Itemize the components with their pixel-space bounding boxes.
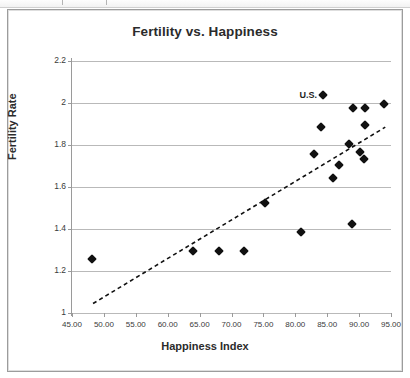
gridline — [72, 271, 391, 272]
gridline — [72, 229, 391, 230]
chart-title: Fertility vs. Happiness — [8, 24, 402, 39]
x-tick-label: 55.00 — [126, 320, 146, 329]
y-tick-mark — [68, 103, 72, 104]
data-point — [360, 103, 370, 113]
data-point — [348, 103, 358, 113]
y-tick-label: 1.4 — [20, 223, 66, 233]
x-tick-mark — [295, 313, 296, 317]
data-point — [379, 99, 389, 109]
y-tick-mark — [68, 187, 72, 188]
y-tick-mark — [68, 229, 72, 230]
x-tick-mark — [391, 313, 392, 317]
y-axis-title: Fertility Rate — [6, 93, 18, 160]
x-tick-label: 90.00 — [349, 320, 369, 329]
data-point — [188, 246, 198, 256]
x-tick-mark — [263, 313, 264, 317]
x-tick-label: 65.00 — [190, 320, 210, 329]
x-tick-mark — [359, 313, 360, 317]
plot-area: 11.21.41.61.822.2 45.0050.0055.0060.0065… — [72, 61, 391, 313]
scan-artifact-strip — [0, 0, 410, 8]
x-tick-mark — [327, 313, 328, 317]
x-tick-label: 95.00 — [381, 320, 401, 329]
x-tick-label: 85.00 — [317, 320, 337, 329]
x-tick-mark — [168, 313, 169, 317]
data-point — [214, 246, 224, 256]
x-tick-label: 45.00 — [62, 320, 82, 329]
annotation-label-us: U.S. — [299, 90, 317, 100]
y-tick-label: 1 — [20, 307, 66, 317]
x-tick-label: 75.00 — [253, 320, 273, 329]
data-point — [239, 246, 249, 256]
data-point — [347, 219, 357, 229]
y-tick-mark — [68, 271, 72, 272]
gridline — [72, 103, 391, 104]
y-tick-mark — [68, 145, 72, 146]
y-tick-label: 2 — [20, 97, 66, 107]
data-point — [334, 160, 344, 170]
data-point — [344, 139, 354, 149]
x-axis-title: Happiness Index — [8, 340, 402, 352]
x-tick-label: 50.00 — [94, 320, 114, 329]
x-tick-label: 60.00 — [158, 320, 178, 329]
y-tick-mark — [68, 61, 72, 62]
x-tick-mark — [104, 313, 105, 317]
data-point — [317, 122, 327, 132]
y-tick-label: 1.6 — [20, 181, 66, 191]
scan-artifact-tick — [106, 0, 107, 5]
x-tick-mark — [232, 313, 233, 317]
data-point — [360, 120, 370, 130]
data-point — [260, 198, 270, 208]
x-tick-label: 70.00 — [221, 320, 241, 329]
chart-figure-frame: Fertility vs. Happiness Fertility Rate H… — [7, 9, 403, 372]
data-point — [318, 90, 328, 100]
gridline — [72, 187, 391, 188]
y-tick-label: 1.2 — [20, 265, 66, 275]
x-tick-label: 80.00 — [285, 320, 305, 329]
x-tick-mark — [200, 313, 201, 317]
gridline — [72, 61, 391, 62]
data-point — [87, 254, 97, 264]
y-tick-label: 1.8 — [20, 139, 66, 149]
x-tick-mark — [72, 313, 73, 317]
data-point — [309, 149, 319, 159]
scan-artifact-tick — [62, 0, 63, 5]
x-tick-mark — [136, 313, 137, 317]
data-point — [328, 173, 338, 183]
gridline — [72, 145, 391, 146]
y-tick-label: 2.2 — [20, 55, 66, 65]
